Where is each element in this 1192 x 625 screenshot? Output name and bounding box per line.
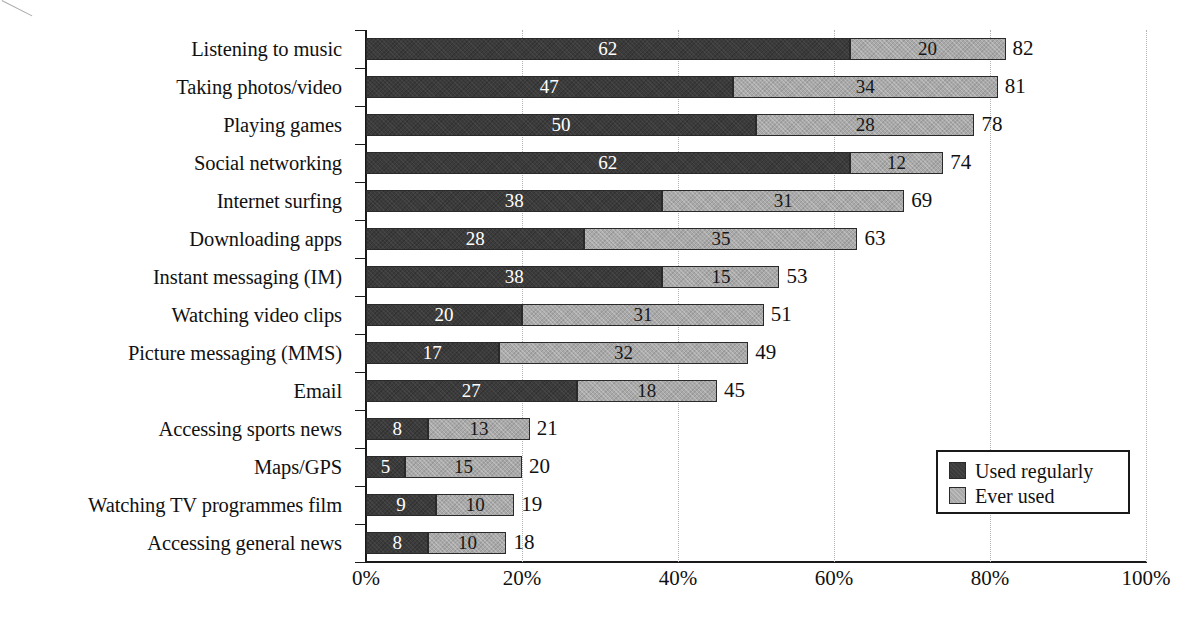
- bar-segment-value: 5: [367, 457, 404, 477]
- bar-segment-ever-used: 32: [499, 342, 749, 364]
- bar-segment-ever-used: 12: [850, 152, 944, 174]
- bar-total-label: 18: [506, 530, 534, 555]
- category-label: Instant messaging (IM): [0, 258, 352, 296]
- bar-row: 203151: [366, 296, 1146, 334]
- bar-segment-ever-used: 15: [662, 266, 779, 288]
- bar-row: 622082: [366, 30, 1146, 68]
- category-label: Social networking: [0, 144, 352, 182]
- bar-segment-value: 9: [367, 495, 435, 515]
- category-label: Downloading apps: [0, 220, 352, 258]
- bar-segment-used-regularly: 9: [366, 494, 436, 516]
- bar-segment-value: 12: [851, 153, 943, 173]
- bar-total-label: 20: [522, 454, 550, 479]
- category-label: Listening to music: [0, 30, 352, 68]
- bar-segment-value: 20: [367, 305, 521, 325]
- bar-row: 271845: [366, 372, 1146, 410]
- bar-total-label: 45: [717, 378, 745, 403]
- bar-segment-ever-used: 10: [436, 494, 514, 516]
- category-label: Watching TV programmes film: [0, 486, 352, 524]
- category-label: Accessing general news: [0, 524, 352, 562]
- category-axis-labels: Listening to musicTaking photos/videoPla…: [0, 30, 352, 562]
- bar-segment-value: 15: [663, 267, 778, 287]
- legend-label: Ever used: [975, 485, 1054, 507]
- y-axis-tick: [355, 562, 366, 563]
- bar-row: 473481: [366, 68, 1146, 106]
- bar-segment-used-regularly: 20: [366, 304, 522, 326]
- category-label: Internet surfing: [0, 182, 352, 220]
- bar-segment-used-regularly: 38: [366, 190, 662, 212]
- bar-segment-value: 31: [523, 305, 763, 325]
- bar-segment-used-regularly: 62: [366, 38, 850, 60]
- bar-segment-value: 62: [367, 153, 849, 173]
- x-axis-tick-label: 60%: [815, 566, 854, 591]
- bar-total-label: 69: [904, 188, 932, 213]
- bar-total-label: 78: [974, 112, 1002, 137]
- bar-segment-value: 13: [429, 419, 528, 439]
- y-axis-tick: [355, 372, 366, 373]
- bar-segment-used-regularly: 17: [366, 342, 499, 364]
- stacked-bar-chart: Listening to musicTaking photos/videoPla…: [0, 0, 1192, 625]
- category-label: Watching video clips: [0, 296, 352, 334]
- bar-row: 381553: [366, 258, 1146, 296]
- bar-row: 283563: [366, 220, 1146, 258]
- bar-segment-used-regularly: 8: [366, 418, 428, 440]
- legend: Used regularlyEver used: [936, 450, 1130, 514]
- y-axis-tick: [355, 220, 366, 221]
- bar-segment-ever-used: 13: [428, 418, 529, 440]
- bar-segment-value: 20: [851, 39, 1005, 59]
- bar-segment-value: 38: [367, 267, 661, 287]
- bar-segment-value: 28: [367, 229, 583, 249]
- x-axis-tick-label: 80%: [971, 566, 1010, 591]
- bar-segment-used-regularly: 5: [366, 456, 405, 478]
- bar-segment-ever-used: 20: [850, 38, 1006, 60]
- bar-total-label: 21: [530, 416, 558, 441]
- legend-swatch-icon: [949, 487, 966, 504]
- category-label: Maps/GPS: [0, 448, 352, 486]
- bar-row: 81018: [366, 524, 1146, 562]
- legend-swatch-icon: [949, 462, 966, 479]
- legend-item: Used regularly: [949, 458, 1128, 483]
- bar-segment-value: 47: [367, 77, 732, 97]
- bar-segment-used-regularly: 27: [366, 380, 577, 402]
- bar-segment-used-regularly: 62: [366, 152, 850, 174]
- legend-label: Used regularly: [975, 460, 1093, 482]
- bar-row: 383169: [366, 182, 1146, 220]
- bar-segment-ever-used: 31: [522, 304, 764, 326]
- bar-total-label: 81: [998, 74, 1026, 99]
- bar-segment-ever-used: 34: [733, 76, 998, 98]
- bar-segment-value: 35: [585, 229, 856, 249]
- bar-total-label: 63: [857, 226, 885, 251]
- bar-segment-value: 18: [578, 381, 716, 401]
- bar-segment-value: 10: [437, 495, 513, 515]
- bar-total-label: 82: [1006, 36, 1034, 61]
- bar-segment-ever-used: 15: [405, 456, 522, 478]
- x-axis-tick-label: 20%: [503, 566, 542, 591]
- bar-segment-used-regularly: 47: [366, 76, 733, 98]
- y-axis-tick: [355, 334, 366, 335]
- bar-segment-used-regularly: 50: [366, 114, 756, 136]
- bar-segment-value: 17: [367, 343, 498, 363]
- bar-total-label: 19: [514, 492, 542, 517]
- bar-row: 502878: [366, 106, 1146, 144]
- bar-segment-used-regularly: 28: [366, 228, 584, 250]
- y-axis-tick: [355, 410, 366, 411]
- bar-segment-ever-used: 28: [756, 114, 974, 136]
- bar-segment-value: 62: [367, 39, 849, 59]
- category-label: Accessing sports news: [0, 410, 352, 448]
- y-axis-tick: [355, 68, 366, 69]
- bar-segment-value: 10: [429, 533, 505, 553]
- y-axis-tick: [355, 486, 366, 487]
- x-axis-tick-label: 100%: [1122, 566, 1171, 591]
- bar-total-label: 53: [779, 264, 807, 289]
- y-axis-tick: [355, 144, 366, 145]
- bar-segment-value: 15: [406, 457, 521, 477]
- y-axis-tick: [355, 258, 366, 259]
- category-label: Taking photos/video: [0, 68, 352, 106]
- y-axis-tick: [355, 524, 366, 525]
- bar-total-label: 51: [764, 302, 792, 327]
- bar-segment-ever-used: 35: [584, 228, 857, 250]
- x-axis-tick-label: 0%: [352, 566, 380, 591]
- bar-row: 173249: [366, 334, 1146, 372]
- bar-segment-used-regularly: 8: [366, 532, 428, 554]
- gridline: [1146, 30, 1147, 562]
